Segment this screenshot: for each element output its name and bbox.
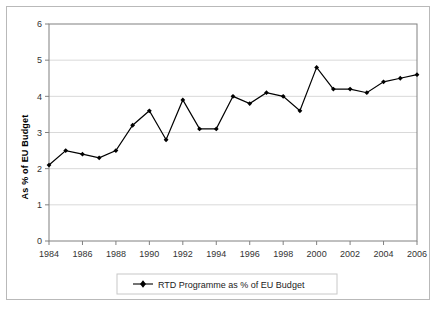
data-point-marker <box>231 94 236 99</box>
data-point-marker <box>415 72 420 77</box>
data-point-marker <box>164 137 169 142</box>
y-tick-label: 1 <box>37 200 42 210</box>
chart-container: As % of EU Budget 0123456 19841986198819… <box>6 6 430 300</box>
x-tick-label: 2004 <box>374 249 394 259</box>
series-markers-rtd <box>47 65 420 167</box>
data-point-marker <box>214 126 219 131</box>
x-tick-label: 1994 <box>206 249 226 259</box>
x-tick-label: 1996 <box>240 249 260 259</box>
x-tick-label: 1998 <box>273 249 293 259</box>
x-tick-label: 2006 <box>407 249 427 259</box>
data-point-marker <box>197 126 202 131</box>
chart-legend[interactable]: RTD Programme as % of EU Budget <box>117 274 337 294</box>
data-point-marker <box>398 76 403 81</box>
x-tick-label: 1988 <box>106 249 126 259</box>
y-tick-label: 0 <box>37 236 42 246</box>
y-gridlines <box>45 24 417 241</box>
data-point-marker <box>180 98 185 103</box>
x-tick-label: 2000 <box>307 249 327 259</box>
y-tick-label: 6 <box>37 19 42 29</box>
y-tick-label: 3 <box>37 128 42 138</box>
line-chart: As % of EU Budget 0123456 19841986198819… <box>7 7 431 301</box>
x-axis-tick-labels: 1984198619881990199219941996199820002002… <box>39 249 427 259</box>
x-tick-label: 1992 <box>173 249 193 259</box>
data-point-marker <box>348 87 353 92</box>
legend-item-label: RTD Programme as % of EU Budget <box>158 280 305 290</box>
y-axis-title: As % of EU Budget <box>20 115 30 200</box>
x-axis-tickmarks <box>49 241 417 245</box>
series-line-rtd <box>49 67 417 165</box>
y-tick-label: 5 <box>37 55 42 65</box>
chart-plot-wrapper: As % of EU Budget 0123456 19841986198819… <box>7 7 431 301</box>
y-tick-label: 2 <box>37 164 42 174</box>
x-tick-label: 1986 <box>72 249 92 259</box>
data-point-marker <box>97 155 102 160</box>
x-tick-label: 1984 <box>39 249 59 259</box>
data-point-marker <box>80 152 85 157</box>
x-tick-label: 1990 <box>139 249 159 259</box>
y-axis-tick-labels: 0123456 <box>37 19 42 246</box>
x-tick-label: 2002 <box>340 249 360 259</box>
series-polyline <box>49 67 417 165</box>
y-tick-label: 4 <box>37 92 42 102</box>
